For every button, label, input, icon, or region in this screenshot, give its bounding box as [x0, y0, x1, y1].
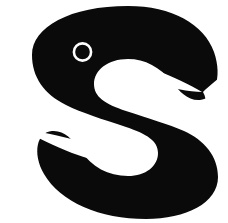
letter-s-logo: [0, 0, 228, 223]
glyph-canvas: [0, 0, 228, 223]
